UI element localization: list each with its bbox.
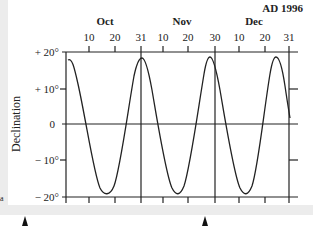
tick-nov-10: 10 [158, 31, 170, 43]
month-label-oct: Oct [96, 15, 113, 27]
bottom-arrows [22, 216, 208, 226]
tick-oct-10: 10 [84, 31, 96, 43]
declination-chart: AD 1996 Oct Nov Dec 10 20 31 10 20 30 10… [0, 0, 313, 226]
tick-dec-10: 10 [234, 31, 246, 43]
ytick-minus20: − 20° [35, 191, 59, 203]
tick-oct-31: 31 [136, 31, 147, 43]
tick-dec-31: 31 [284, 31, 295, 43]
ytick-plus20: + 20° [35, 46, 59, 58]
declination-curve [68, 57, 290, 194]
up-arrow-icon [22, 216, 28, 226]
chart-title: AD 1996 [262, 2, 303, 14]
tick-oct-20: 20 [110, 31, 122, 43]
month-label-nov: Nov [173, 15, 192, 27]
y-axis-label: Declination [9, 96, 23, 152]
up-arrow-icon [202, 216, 208, 226]
ytick-minus10: − 10° [35, 154, 59, 166]
ytick-zero: 0 [50, 118, 56, 130]
tick-nov-30: 30 [210, 31, 222, 43]
tick-nov-20: 20 [183, 31, 195, 43]
ytick-plus10: + 10° [35, 83, 59, 95]
month-label-dec: Dec [245, 15, 263, 27]
tick-dec-20: 20 [260, 31, 272, 43]
footnote-label: a [0, 194, 4, 203]
